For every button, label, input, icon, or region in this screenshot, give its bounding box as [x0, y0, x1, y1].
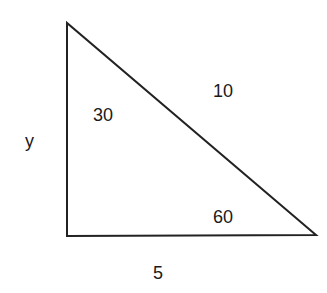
right-triangle — [67, 23, 316, 236]
top-angle-label: 30 — [93, 105, 113, 125]
hypotenuse-label: 10 — [213, 81, 233, 101]
vertical-side-label: y — [25, 131, 34, 151]
horizontal-side-label: 5 — [153, 263, 163, 283]
bottom-right-angle-label: 60 — [213, 207, 233, 227]
triangle-diagram: 30 10 60 y 5 — [0, 0, 327, 293]
